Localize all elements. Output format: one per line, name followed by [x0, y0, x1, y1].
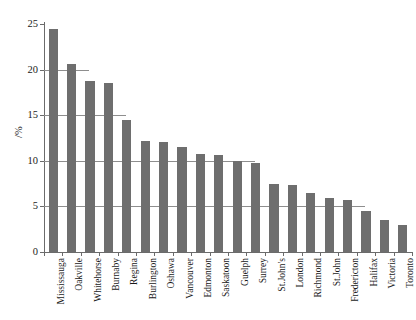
bar — [122, 120, 131, 252]
x-axis-category-label: Mississauga — [57, 258, 67, 304]
bar — [196, 154, 205, 252]
x-axis-category-label: St.John's — [278, 258, 288, 292]
x-axis-category-label: Oakville — [75, 258, 85, 291]
x-axis-category-label: Vancouver — [186, 258, 196, 299]
bar — [104, 83, 113, 252]
bar-chart: /% 0510152025 MississaugaOakvilleWhiteho… — [0, 0, 416, 320]
bar — [141, 141, 150, 252]
bar — [214, 155, 223, 252]
bar — [251, 163, 260, 252]
y-axis-label: /% — [14, 126, 25, 138]
bar — [233, 161, 242, 252]
x-axis-category-label: Burlington — [149, 258, 159, 299]
x-tick-mark — [394, 252, 395, 256]
x-axis-category-label: Halifax — [370, 258, 380, 287]
x-axis-category-label: Surrey — [259, 258, 269, 283]
x-tick-mark — [99, 252, 100, 256]
x-tick-mark — [338, 252, 339, 256]
x-tick-mark — [118, 252, 119, 256]
x-tick-mark — [44, 252, 45, 256]
x-tick-mark — [283, 252, 284, 256]
x-tick-mark — [375, 252, 376, 256]
bar — [288, 185, 297, 252]
bar — [325, 198, 334, 252]
bar — [85, 81, 94, 252]
x-tick-mark — [302, 252, 303, 256]
x-axis-category-label: Victoria — [388, 258, 398, 289]
x-tick-mark — [320, 252, 321, 256]
x-tick-mark — [246, 252, 247, 256]
bar — [343, 200, 352, 252]
x-tick-mark — [228, 252, 229, 256]
x-axis-category-label: Richmond — [314, 258, 324, 298]
y-tick-label: 0 — [33, 247, 38, 258]
y-tick-label: 10 — [28, 156, 39, 167]
x-axis-category-label: Whitehorse — [94, 258, 104, 302]
y-tick-label: 20 — [28, 64, 39, 75]
bar — [159, 142, 168, 252]
x-tick-mark — [154, 252, 155, 256]
x-tick-mark — [357, 252, 358, 256]
bar — [361, 211, 370, 252]
x-axis-category-label: Regina — [130, 258, 140, 285]
x-axis-category-label: Oshawa — [167, 258, 177, 289]
x-axis-category-label: St.John — [333, 258, 343, 286]
x-tick-mark — [412, 252, 413, 256]
x-axis-category-label: Burnaby — [112, 258, 122, 291]
x-tick-mark — [81, 252, 82, 256]
y-tick-label: 5 — [33, 201, 38, 212]
x-axis-category-label: Edmonton — [204, 258, 214, 298]
bar — [67, 64, 76, 252]
x-axis-category-label: Fredericton — [351, 258, 361, 302]
x-tick-mark — [191, 252, 192, 256]
y-tick-label: 15 — [28, 110, 39, 121]
x-axis-category-label: Guelph — [241, 258, 251, 286]
bar — [177, 147, 186, 252]
x-tick-mark — [210, 252, 211, 256]
plot-area: 0510152025 — [44, 24, 412, 252]
bar — [398, 225, 407, 252]
x-tick-mark — [173, 252, 174, 256]
x-tick-mark — [136, 252, 137, 256]
y-tick-label: 25 — [28, 19, 39, 30]
x-tick-mark — [265, 252, 266, 256]
x-tick-mark — [62, 252, 63, 256]
x-axis-category-label: Toronto — [406, 258, 416, 288]
x-axis-category-label: Saskatoon — [222, 258, 232, 297]
y-tick-mark — [40, 24, 45, 25]
bar — [269, 184, 278, 252]
x-axis-category-label: London — [296, 258, 306, 288]
bar — [380, 220, 389, 252]
bar — [49, 29, 58, 252]
bar — [306, 193, 315, 252]
